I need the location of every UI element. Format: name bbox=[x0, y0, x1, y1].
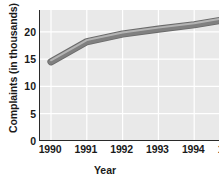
data-series-line bbox=[40, 10, 219, 141]
plot-area bbox=[39, 10, 219, 141]
line-chart: Complaints (in thousands) 05101520 19901… bbox=[0, 0, 219, 187]
x-axis-tick-label: 1994 bbox=[176, 143, 210, 155]
x-axis-tick-label: 1993 bbox=[140, 143, 174, 155]
x-axis-title: Year bbox=[0, 164, 210, 176]
x-axis-tick-label: 1995 bbox=[212, 143, 219, 155]
y-axis-tick-label: 20 bbox=[18, 27, 36, 37]
x-axis-tick-label: 1992 bbox=[105, 143, 139, 155]
x-axis-tick-label: 1990 bbox=[33, 143, 67, 155]
x-axis-tick-label: 1991 bbox=[69, 143, 103, 155]
y-axis-tick-label: 5 bbox=[18, 109, 36, 119]
x-axis-tick-labels: 199019911992199319941995 bbox=[0, 143, 219, 157]
y-axis-tick-labels: 05101520 bbox=[16, 0, 36, 187]
y-axis-tick-label: 15 bbox=[18, 54, 36, 64]
y-axis-tick-label: 10 bbox=[18, 81, 36, 91]
